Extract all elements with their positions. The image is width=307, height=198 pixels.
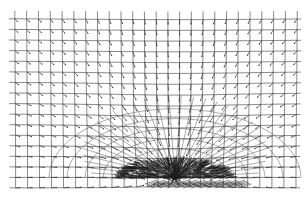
dense-singularity-region <box>113 156 252 188</box>
mesh-canvas <box>0 0 307 198</box>
vector-field-figure: vector-field-mesh <box>0 0 307 198</box>
